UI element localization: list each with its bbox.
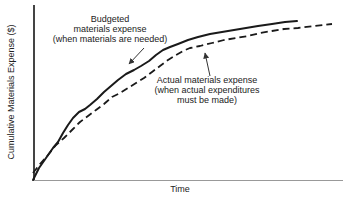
x-axis-title: Time <box>170 184 190 194</box>
actual-annotation: Actual materials expense (when actual ex… <box>154 75 259 105</box>
actual-annotation-line2: (when actual expenditures <box>154 85 259 95</box>
chart-figure: Cumulative Materials Expense ($) Time Bu… <box>0 0 357 203</box>
budgeted-annotation: Budgeted materials expense (when materia… <box>53 14 168 44</box>
budgeted-annotation-line3: (when materials are needed) <box>53 34 168 44</box>
budgeted-annotation-line1: Budgeted <box>53 14 168 24</box>
actual-annotation-arrow <box>205 53 210 76</box>
budgeted-annotation-line2: materials expense <box>53 24 168 34</box>
y-axis-title: Cumulative Materials Expense ($) <box>6 24 16 159</box>
budgeted-annotation-arrow <box>129 48 144 64</box>
actual-annotation-line1: Actual materials expense <box>154 75 259 85</box>
actual-annotation-line3: must be made) <box>154 95 259 105</box>
